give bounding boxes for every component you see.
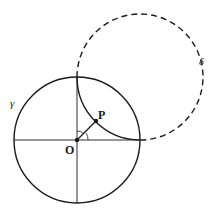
angle-arc-upper [77, 131, 84, 134]
label-o: O [65, 143, 74, 157]
label-p: P [98, 108, 105, 122]
label-delta: δ [199, 56, 204, 67]
angle-arc-lower [86, 133, 88, 140]
segment-op [77, 121, 96, 140]
label-gamma: γ [10, 97, 15, 109]
point-o [75, 138, 79, 142]
geometry-diagram: γ δ O P [0, 0, 219, 216]
